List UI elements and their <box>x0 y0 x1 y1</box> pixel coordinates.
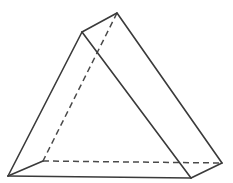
triangular-prism-drawing <box>0 0 233 183</box>
figure-canvas <box>0 0 233 183</box>
